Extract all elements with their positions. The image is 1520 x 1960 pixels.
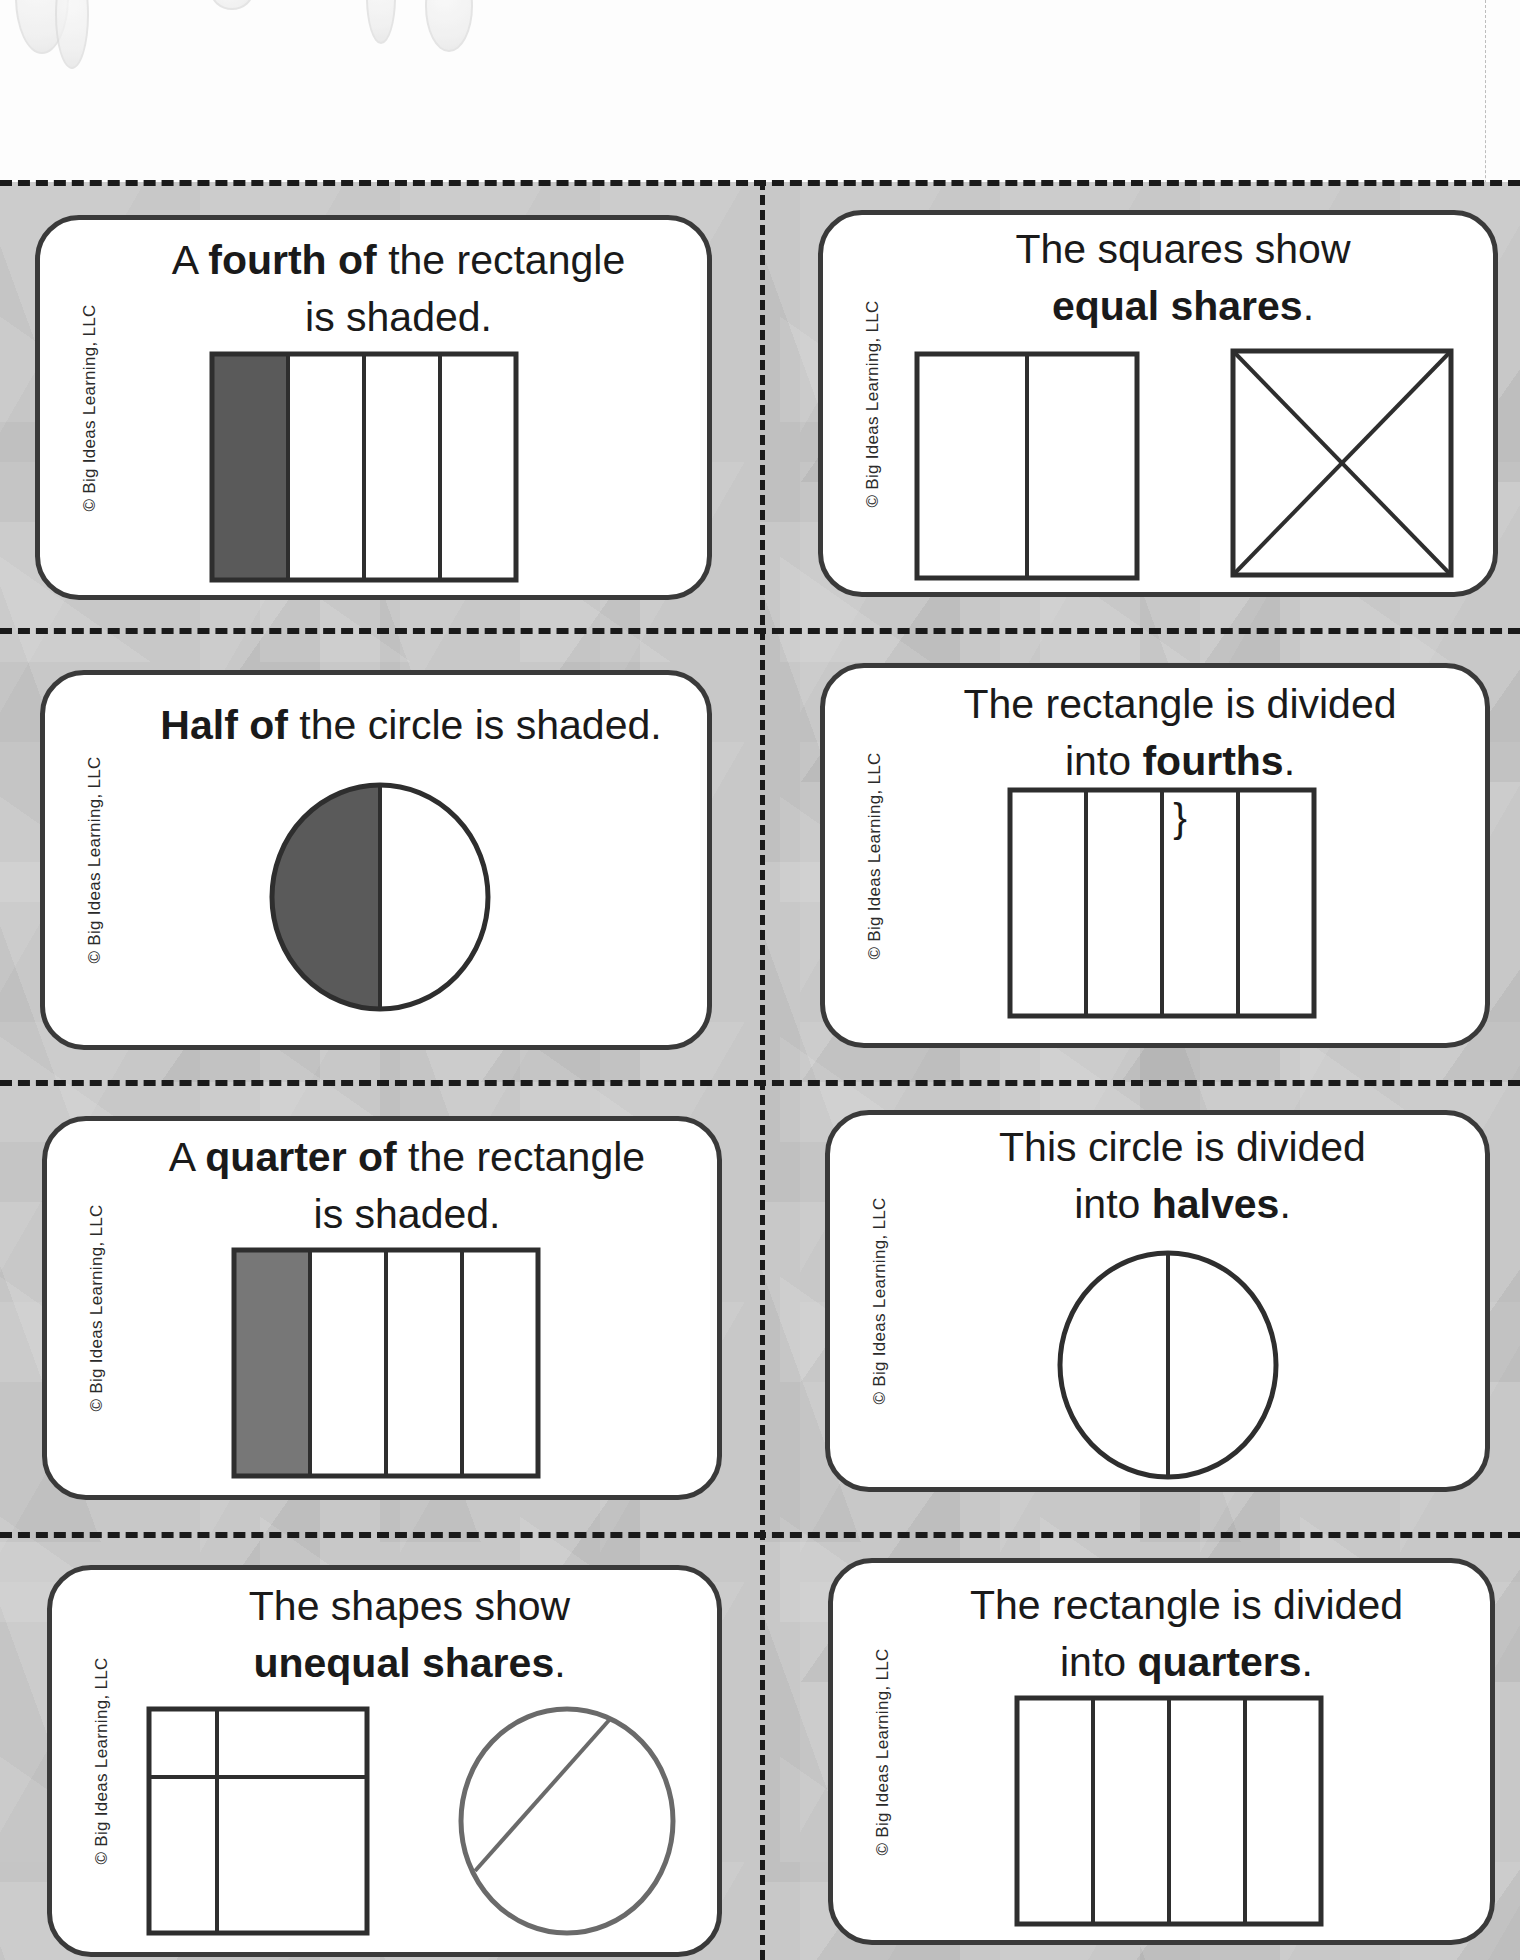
decorative-bubble <box>425 0 473 52</box>
caption-line-2: into halves. <box>900 1176 1465 1233</box>
rectangle-unequal-parts-figure <box>147 1707 373 1939</box>
caption-line-2: unequal shares. <box>122 1635 697 1692</box>
decorative-bubble <box>366 0 396 44</box>
decorative-bubble <box>210 0 254 10</box>
card-caption: A fourth of the rectangle is shaded. <box>110 232 687 346</box>
vocab-card-fourths: © Big Ideas Learning, LLC The rectangle … <box>820 663 1490 1048</box>
vocab-card-half-of: © Big Ideas Learning, LLC Half of the ci… <box>40 670 712 1050</box>
caption-line-2: into quarters. <box>903 1634 1470 1691</box>
decorative-bubble <box>55 0 89 69</box>
square-halves-figure <box>915 352 1141 582</box>
card-caption: This circle is divided into halves. <box>900 1119 1465 1233</box>
rectangle-quarter-shaded-figure <box>232 1248 542 1480</box>
caption-line-1: The squares show <box>893 221 1473 278</box>
caption-line-1: Half of the circle is shaded. <box>125 697 697 754</box>
card-caption: The squares show equal shares. <box>893 221 1473 335</box>
vocab-card-equal-shares: © Big Ideas Learning, LLC The squares sh… <box>818 210 1498 597</box>
card-caption: The rectangle is divided into quarters. <box>903 1577 1470 1691</box>
rectangle-fourths-shaded-figure <box>210 352 520 582</box>
card-caption: The shapes show unequal shares. <box>122 1578 697 1692</box>
square-diagonal-fourths-figure <box>1231 349 1455 579</box>
circle-unequal-parts-figure <box>459 1706 683 1938</box>
page-header-area <box>0 0 1520 182</box>
rectangle-fourths-figure <box>1008 788 1318 1020</box>
vocab-card-quarter-of: © Big Ideas Learning, LLC A quarter of t… <box>42 1116 722 1500</box>
vocab-card-unequal-shares: © Big Ideas Learning, LLC The shapes sho… <box>47 1565 722 1957</box>
rectangle-quarters-figure <box>1015 1696 1325 1928</box>
caption-line-1: The shapes show <box>122 1578 697 1635</box>
caption-line-1: The rectangle is divided <box>903 1577 1470 1634</box>
caption-line-1: The rectangle is divided <box>895 676 1465 733</box>
vocab-card-quarters: © Big Ideas Learning, LLC The rectangle … <box>828 1558 1495 1945</box>
caption-line-1: A quarter of the rectangle <box>117 1129 697 1186</box>
caption-line-1: A fourth of the rectangle <box>110 232 687 289</box>
caption-line-2: into fourths. <box>895 733 1465 790</box>
card-caption: Half of the circle is shaded. <box>125 697 697 754</box>
circle-half-shaded-figure <box>270 781 494 1013</box>
caption-line-2: equal shares. <box>893 278 1473 335</box>
card-caption: A quarter of the rectangle is shaded. <box>117 1129 697 1243</box>
caption-line-1: This circle is divided <box>900 1119 1465 1176</box>
circle-halves-figure <box>1058 1249 1282 1481</box>
cut-line-vertical <box>760 180 765 1960</box>
vocab-card-fourth-of: © Big Ideas Learning, LLC A fourth of th… <box>35 215 712 600</box>
vocab-card-halves: © Big Ideas Learning, LLC This circle is… <box>825 1110 1490 1492</box>
caption-line-2: is shaded. <box>117 1186 697 1243</box>
caption-line-2: is shaded. <box>110 289 687 346</box>
